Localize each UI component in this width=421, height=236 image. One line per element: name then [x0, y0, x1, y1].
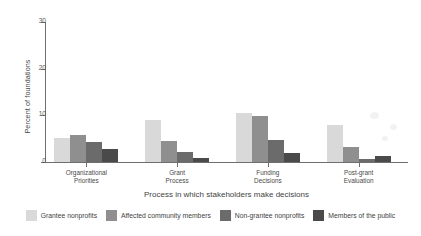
- chart-legend: Grantee nonprofitsAffected community mem…: [0, 210, 421, 221]
- x-category-label-line: Decisions: [228, 177, 308, 185]
- bar: [236, 113, 252, 162]
- bar: [252, 116, 268, 162]
- bar: [145, 120, 161, 162]
- y-axis-title: Percent of foundations: [23, 17, 32, 177]
- bar: [193, 158, 209, 162]
- y-tick-label: 20: [30, 65, 46, 72]
- x-category-label: FundingDecisions: [228, 169, 308, 185]
- y-tick-20: 20: [0, 69, 46, 70]
- y-tick-label: 10: [30, 111, 46, 118]
- bar-chart: Percent of foundations 0102030 Organizat…: [0, 0, 421, 236]
- bar: [70, 135, 86, 162]
- legend-label: Non-grantee nonprofits: [235, 212, 305, 219]
- bar: [177, 152, 193, 162]
- bar: [102, 149, 118, 162]
- x-category-label-line: Grant: [137, 169, 217, 177]
- y-tick-label: 0: [30, 158, 46, 165]
- legend-item[interactable]: Non-grantee nonprofits: [220, 210, 305, 221]
- legend-swatch-icon: [220, 210, 231, 221]
- x-category-label-line: Priorities: [46, 177, 126, 185]
- legend-label: Grantee nonprofits: [41, 212, 97, 219]
- x-category-label-line: Funding: [228, 169, 308, 177]
- legend-label: Members of the public: [328, 212, 395, 219]
- x-axis-title: Process in which stakeholders make decis…: [45, 190, 408, 199]
- bar: [343, 147, 359, 162]
- y-tick-10: 10: [0, 115, 46, 116]
- x-category-label-line: Evaluation: [319, 177, 399, 185]
- bar: [284, 153, 300, 162]
- x-category-label: Post-grantEvaluation: [319, 169, 399, 185]
- legend-swatch-icon: [26, 210, 37, 221]
- bar: [54, 138, 70, 162]
- x-tick-mark: [359, 163, 360, 167]
- bar: [359, 159, 375, 162]
- legend-item[interactable]: Members of the public: [313, 210, 395, 221]
- y-tick-0: 0: [0, 162, 46, 163]
- legend-swatch-icon: [313, 210, 324, 221]
- x-tick-mark: [268, 163, 269, 167]
- x-category-label-line: Organizational: [46, 169, 126, 177]
- x-category-label: GrantProcess: [137, 169, 217, 185]
- legend-item[interactable]: Grantee nonprofits: [26, 210, 97, 221]
- bar: [327, 125, 343, 162]
- x-category-label: OrganizationalPriorities: [46, 169, 126, 185]
- y-tick-30: 30: [0, 22, 46, 23]
- bar: [161, 141, 177, 162]
- legend-item[interactable]: Affected community members: [106, 210, 211, 221]
- bar: [86, 142, 102, 162]
- x-axis-line: [45, 162, 408, 163]
- x-tick-mark: [177, 163, 178, 167]
- legend-label: Affected community members: [121, 212, 211, 219]
- bar: [268, 140, 284, 162]
- x-category-label-line: Process: [137, 177, 217, 185]
- y-tick-label: 30: [30, 18, 46, 25]
- plot-area: [45, 22, 408, 162]
- x-category-label-line: Post-grant: [319, 169, 399, 177]
- bar: [375, 156, 391, 162]
- legend-swatch-icon: [106, 210, 117, 221]
- x-tick-mark: [86, 163, 87, 167]
